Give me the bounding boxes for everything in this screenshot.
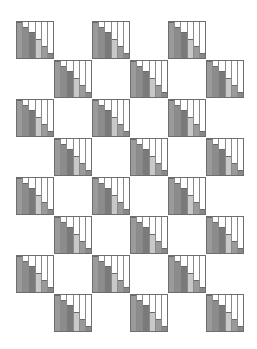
bar-tile <box>168 177 206 215</box>
bar-fill <box>55 295 60 331</box>
bar-fill <box>61 144 66 175</box>
bar-fill <box>188 273 193 292</box>
bar-tile <box>54 138 92 176</box>
bar-column <box>124 178 129 214</box>
bar-column <box>86 295 91 331</box>
bar-fill <box>118 202 123 214</box>
bar-fill <box>29 110 34 136</box>
bar-fill <box>137 144 142 175</box>
bar-tile <box>168 21 206 59</box>
bar-fill <box>23 261 28 292</box>
bar-fill <box>48 209 53 214</box>
bar-fill <box>74 234 79 253</box>
bar-fill <box>131 217 136 253</box>
bar-fill <box>188 117 193 136</box>
bar-fill <box>23 105 28 136</box>
bar-fill <box>219 305 224 331</box>
bar-fill <box>61 222 66 253</box>
bar-fill <box>124 131 129 136</box>
bar-fill <box>131 61 136 97</box>
bar-fill <box>36 195 41 214</box>
bar-column <box>200 22 205 58</box>
bar-fill <box>124 287 129 292</box>
bar-fill <box>207 217 212 253</box>
bar-fill <box>169 178 174 214</box>
bar-fill <box>213 144 218 175</box>
bar-column <box>86 139 91 175</box>
bar-fill <box>150 156 155 175</box>
bar-tile <box>206 60 244 98</box>
bar-fill <box>17 100 22 136</box>
bar-fill <box>137 300 142 331</box>
bar-fill <box>48 287 53 292</box>
bar-column <box>200 100 205 136</box>
bar-fill <box>169 256 174 292</box>
bar-column <box>238 217 243 253</box>
bar-fill <box>36 117 41 136</box>
bar-fill <box>99 27 104 58</box>
bar-fill <box>156 163 161 175</box>
bar-fill <box>124 53 129 58</box>
bar-fill <box>86 170 91 175</box>
bar-fill <box>156 319 161 331</box>
bar-fill <box>23 27 28 58</box>
bar-fill <box>17 256 22 292</box>
bar-tile <box>54 60 92 98</box>
bar-fill <box>112 195 117 214</box>
bar-fill <box>219 227 224 253</box>
bar-fill <box>207 295 212 331</box>
bar-fill <box>99 261 104 292</box>
bar-fill <box>93 100 98 136</box>
bar-fill <box>150 234 155 253</box>
bar-fill <box>169 22 174 58</box>
bar-fill <box>219 149 224 175</box>
bar-fill <box>226 234 231 253</box>
bar-fill <box>112 39 117 58</box>
bar-fill <box>118 124 123 136</box>
bar-fill <box>48 53 53 58</box>
bar-fill <box>207 61 212 97</box>
bar-fill <box>226 312 231 331</box>
bar-fill <box>200 53 205 58</box>
bar-column <box>124 256 129 292</box>
bar-column <box>200 178 205 214</box>
bar-tile <box>130 294 168 332</box>
bar-fill <box>162 248 167 253</box>
bar-tile <box>92 99 130 137</box>
bar-fill <box>226 156 231 175</box>
bar-tile <box>16 177 54 215</box>
bar-fill <box>48 131 53 136</box>
bar-fill <box>80 241 85 253</box>
bar-fill <box>226 78 231 97</box>
bar-column <box>162 217 167 253</box>
bar-fill <box>232 163 237 175</box>
bar-fill <box>150 312 155 331</box>
bar-column <box>238 61 243 97</box>
bar-fill <box>137 222 142 253</box>
bar-fill <box>67 227 72 253</box>
bar-column <box>200 256 205 292</box>
bar-tile <box>16 99 54 137</box>
bar-fill <box>150 78 155 97</box>
bar-fill <box>29 32 34 58</box>
bar-tile <box>130 60 168 98</box>
bar-fill <box>17 22 22 58</box>
bar-fill <box>36 273 41 292</box>
bar-fill <box>124 209 129 214</box>
bar-fill <box>162 92 167 97</box>
bar-tile <box>16 255 54 293</box>
bar-fill <box>200 287 205 292</box>
bar-fill <box>118 280 123 292</box>
bar-fill <box>213 222 218 253</box>
bar-fill <box>42 280 47 292</box>
bar-tile <box>168 255 206 293</box>
bar-fill <box>105 32 110 58</box>
bar-fill <box>213 66 218 97</box>
bar-fill <box>162 170 167 175</box>
bar-fill <box>181 110 186 136</box>
bar-fill <box>74 78 79 97</box>
bar-fill <box>86 248 91 253</box>
bar-fill <box>99 105 104 136</box>
bar-fill <box>156 241 161 253</box>
bar-tile <box>16 21 54 59</box>
